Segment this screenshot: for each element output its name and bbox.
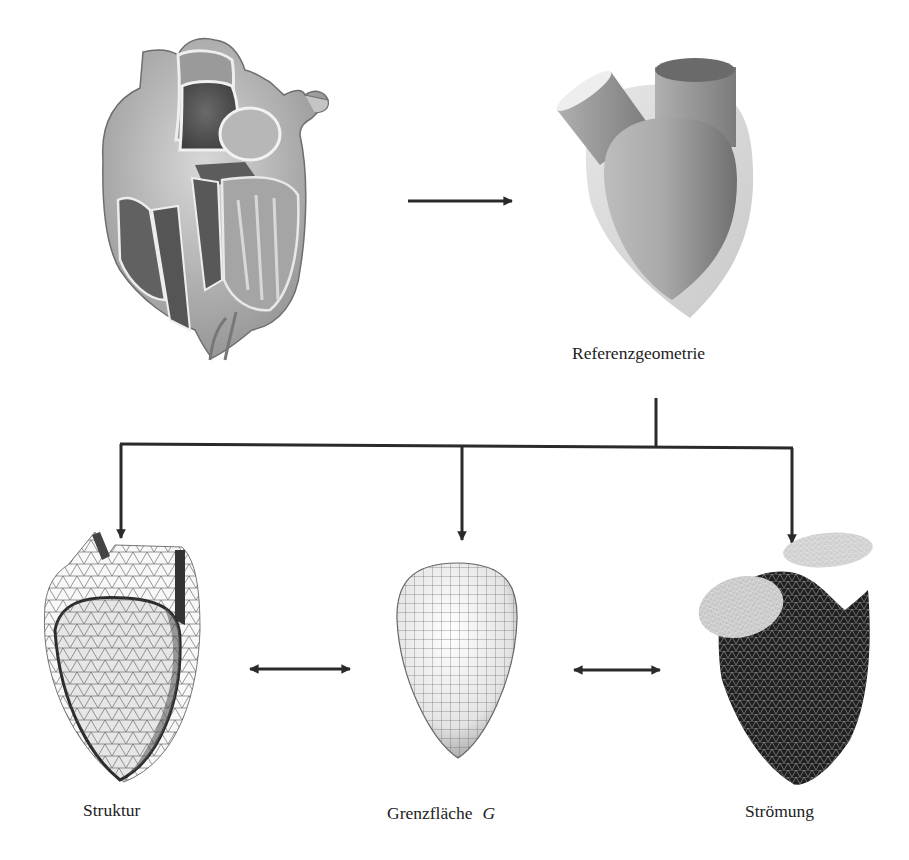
flow-mesh-model <box>692 529 875 790</box>
label-flow: Strömung <box>745 801 814 821</box>
interface-symbol: G <box>483 803 496 823</box>
label-interface-text: Grenzfläche <box>387 803 473 823</box>
label-structure: Struktur <box>83 800 141 820</box>
branch-connector <box>120 398 793 543</box>
label-reference-geometry: Referenzgeometrie <box>572 343 705 363</box>
label-interface: GrenzflächeG <box>387 803 496 823</box>
anatomical-heart-illustration <box>103 39 329 360</box>
interface-mesh-model <box>395 560 520 760</box>
structure-mesh-model <box>44 532 200 790</box>
diagram-canvas: Referenzgeometrie Struktur GrenzflächeG <box>0 0 909 860</box>
reference-geometry-model <box>552 58 753 318</box>
